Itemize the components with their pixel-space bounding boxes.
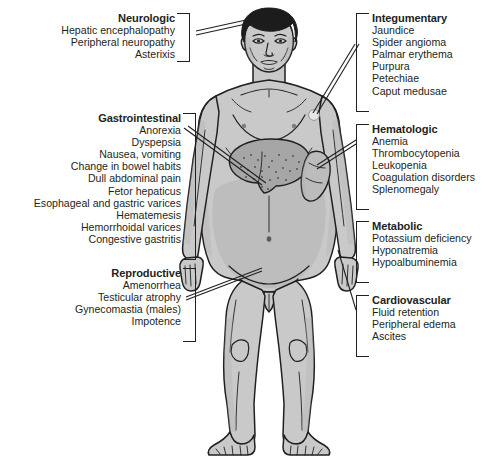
callout-item: Fluid retention <box>372 306 456 318</box>
callout-item: Testicular atrophy <box>75 291 181 303</box>
callout-title-integumentary: Integumentary <box>372 12 453 24</box>
spider-angioma-mark <box>309 110 320 121</box>
callout-item: Gynecomastia (males) <box>75 303 181 315</box>
head-group <box>241 8 297 72</box>
callout-item: Asterixis <box>61 48 175 60</box>
callout-item: Hepatic encephalopathy <box>61 24 175 36</box>
callout-item: Spider angioma <box>372 36 453 48</box>
spleen-organ <box>301 151 330 201</box>
callout-item: Splenomegaly <box>372 183 475 195</box>
callout-hematologic[interactable]: Hematologic Anemia Thrombocytopenia Leuk… <box>372 123 475 196</box>
callout-neurologic[interactable]: Neurologic Hepatic encephalopathy Periph… <box>61 12 175 60</box>
callout-item: Potassium deficiency <box>372 232 472 244</box>
callout-title-reproductive: Reproductive <box>75 267 181 279</box>
callout-item: Coagulation disorders <box>372 171 475 183</box>
callout-title-neurologic: Neurologic <box>61 12 175 24</box>
bracket-hematologic <box>356 124 369 210</box>
callout-item: Hematemesis <box>34 209 181 221</box>
bracket-gastrointestinal <box>183 113 196 260</box>
arms-group <box>180 96 358 291</box>
callout-item: Peripheral edema <box>372 318 456 330</box>
bracket-reproductive <box>183 268 196 342</box>
callout-title-gastrointestinal: Gastrointestinal <box>34 112 181 124</box>
callout-item: Ascites <box>372 330 456 342</box>
genital-group <box>264 292 275 312</box>
callout-item: Impotence <box>75 315 181 327</box>
callout-item: Jaundice <box>372 24 453 36</box>
callout-item: Congestive gastritis <box>34 233 181 245</box>
callout-gastrointestinal[interactable]: Gastrointestinal Anorexia Dyspepsia Naus… <box>34 112 181 245</box>
callout-item: Purpura <box>372 60 453 72</box>
callout-item: Caput medusae <box>372 85 453 97</box>
callout-item: Amenorrhea <box>75 279 181 291</box>
callout-title-hematologic: Hematologic <box>372 123 475 135</box>
callout-cardiovascular[interactable]: Cardiovascular Fluid retention Periphera… <box>372 294 456 342</box>
bracket-integumentary <box>356 13 369 112</box>
callout-item: Petechiae <box>372 72 453 84</box>
callout-item: Fetor hepaticus <box>34 185 181 197</box>
body-group <box>196 62 343 296</box>
callout-item: Hemorrhoidal varices <box>34 221 181 233</box>
callout-item: Peripheral neuropathy <box>61 36 175 48</box>
callout-item: Dull abdominal pain <box>34 172 181 184</box>
callout-item: Thrombocytopenia <box>372 147 475 159</box>
diagram-canvas: .sk{fill:#c9c9c9;stroke:#231f20;stroke-w… <box>0 0 487 463</box>
callout-metabolic[interactable]: Metabolic Potassium deficiency Hyponatre… <box>372 220 472 268</box>
callout-item: Hypoalbuminemia <box>372 256 472 268</box>
callout-item: Palmar erythema <box>372 48 453 60</box>
callout-item: Hyponatremia <box>372 244 472 256</box>
bracket-neurologic <box>177 13 190 62</box>
bracket-metabolic <box>356 221 369 283</box>
liver-organ <box>229 139 309 193</box>
callout-title-cardiovascular: Cardiovascular <box>372 294 456 306</box>
callout-item: Leukopenia <box>372 159 475 171</box>
legs-group <box>208 281 330 455</box>
leader-lines <box>184 18 359 310</box>
callout-item: Anemia <box>372 135 475 147</box>
callout-item: Change in bowel habits <box>34 160 181 172</box>
callout-reproductive[interactable]: Reproductive Amenorrhea Testicular atrop… <box>75 267 181 327</box>
callout-item: Dyspepsia <box>34 136 181 148</box>
callout-item: Esophageal and gastric varices <box>34 197 181 209</box>
bracket-cardiovascular <box>356 295 369 357</box>
callout-integumentary[interactable]: Integumentary Jaundice Spider angioma Pa… <box>372 12 453 97</box>
callout-item: Nausea, vomiting <box>34 148 181 160</box>
callout-title-metabolic: Metabolic <box>372 220 472 232</box>
callout-item: Anorexia <box>34 124 181 136</box>
